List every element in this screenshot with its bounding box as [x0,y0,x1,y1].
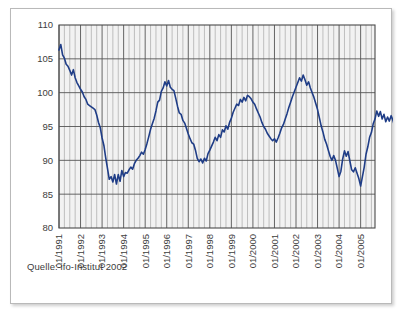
y-axis-tick-label: 90 [42,155,53,166]
x-axis-tick-label: 01/1997 [183,234,194,268]
x-axis-tick-label: 01/2001 [269,234,280,268]
x-axis-tick-label: 01/2004 [333,234,344,268]
x-axis-tick-label: 01/2000 [247,234,258,268]
x-axis-tick-label: 01/1999 [226,234,237,268]
x-axis-tick-label: 01/1995 [140,234,151,268]
y-axis-tick-label: 95 [42,121,53,132]
x-axis-tick-label: 01/2005 [355,234,366,268]
y-axis-tick-label: 85 [42,189,53,200]
y-axis-tick-label: 80 [42,222,53,233]
chart-figure: 8085909510010511001/199101/199201/199301… [10,8,392,304]
y-axis-tick-label: 100 [37,87,53,98]
x-axis-tick-label: 01/1996 [161,234,172,268]
x-axis-tick-label: 01/2002 [290,234,301,268]
x-axis-tick-label: 01/2003 [312,234,323,268]
y-axis-tick-label: 105 [37,53,53,64]
y-axis-tick-label: 110 [38,19,53,30]
source-note: Quelle: ifo-Institut 2002 [27,261,127,272]
x-axis-tick-label: 01/1998 [204,234,215,268]
